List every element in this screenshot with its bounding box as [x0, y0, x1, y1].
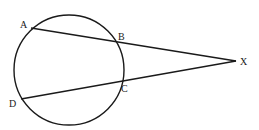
label-b: B [118, 31, 125, 42]
secant-line-axb [31, 28, 236, 61]
secant-diagram: A B C D X [0, 0, 259, 130]
label-d: D [9, 98, 16, 109]
label-a: A [20, 19, 28, 30]
circle [14, 15, 124, 125]
label-x: X [240, 56, 248, 67]
label-c: C [121, 83, 128, 94]
secant-line-dcx [21, 61, 236, 99]
